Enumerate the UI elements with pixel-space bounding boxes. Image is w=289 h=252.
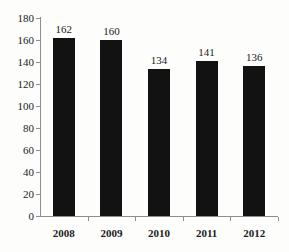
bar-chart: 020406080100120140160180 162200816020091… bbox=[0, 0, 289, 252]
y-axis-tick-label: 0 bbox=[0, 211, 34, 222]
x-axis-category-label: 2008 bbox=[40, 228, 88, 239]
x-axis-tick bbox=[278, 217, 279, 221]
bar bbox=[100, 40, 122, 216]
y-axis-tick-label: 120 bbox=[0, 79, 34, 90]
y-axis-tick-label: 80 bbox=[0, 123, 34, 134]
y-axis-tick bbox=[36, 128, 40, 129]
y-axis-tick bbox=[36, 172, 40, 173]
x-axis-tick bbox=[230, 217, 231, 221]
y-axis-tick-label: 40 bbox=[0, 167, 34, 178]
y-axis-tick-label: 100 bbox=[0, 101, 34, 112]
plot-area bbox=[40, 18, 278, 216]
y-axis-tick-label: 60 bbox=[0, 145, 34, 156]
y-axis-tick bbox=[36, 150, 40, 151]
bar bbox=[148, 69, 170, 216]
y-axis-tick bbox=[36, 62, 40, 63]
y-axis-tick bbox=[36, 106, 40, 107]
x-axis-category-label: 2009 bbox=[87, 228, 135, 239]
x-axis-category-label: 2012 bbox=[230, 228, 278, 239]
bar bbox=[243, 66, 265, 216]
bar bbox=[196, 61, 218, 216]
x-axis-line bbox=[40, 216, 278, 217]
y-axis-tick bbox=[36, 40, 40, 41]
bar-value-label: 136 bbox=[234, 52, 274, 63]
bar bbox=[53, 38, 75, 216]
x-axis-tick bbox=[88, 217, 89, 221]
y-axis-tick bbox=[36, 18, 40, 19]
y-axis-tick bbox=[36, 194, 40, 195]
x-axis-category-label: 2010 bbox=[135, 228, 183, 239]
y-axis-tick-label: 140 bbox=[0, 57, 34, 68]
x-axis-tick bbox=[135, 217, 136, 221]
y-axis-tick-label: 160 bbox=[0, 35, 34, 46]
y-axis-tick-label: 20 bbox=[0, 189, 34, 200]
bar-value-label: 141 bbox=[187, 47, 227, 58]
bar-value-label: 160 bbox=[91, 26, 131, 37]
y-axis-labels: 020406080100120140160180 bbox=[0, 0, 34, 252]
y-axis-tick-label: 180 bbox=[0, 13, 34, 24]
y-axis-tick bbox=[36, 216, 40, 217]
x-axis-tick bbox=[183, 217, 184, 221]
bar-value-label: 162 bbox=[44, 24, 84, 35]
x-axis-category-label: 2011 bbox=[183, 228, 231, 239]
y-axis-tick bbox=[36, 84, 40, 85]
bar-value-label: 134 bbox=[139, 55, 179, 66]
